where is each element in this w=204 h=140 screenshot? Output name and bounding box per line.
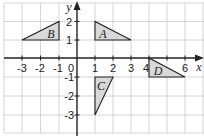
y-tick-label: 1 [66,34,72,46]
x-tick-label: 2 [110,62,116,74]
triangle-c-label: C [97,79,106,93]
y-axis-arrow-icon [74,1,81,10]
x-tick-label: 4 [143,62,149,74]
grid-lines [4,3,204,133]
y-tick-label: 2 [66,16,72,28]
x-tick-label: -2 [35,62,45,74]
y-axis-label: y [65,0,72,14]
y-tick-label: -2 [64,90,74,102]
x-tick-label: -3 [17,62,27,74]
y-tick-label: -1 [64,71,74,83]
y-tick-label: -3 [64,109,74,121]
x-tick-label: 3 [128,62,134,74]
coordinate-grid-figure: -3 -2 -1 0 1 2 3 4 5 6 2 1 -1 -2 -3 x y … [0,0,204,140]
triangle-d-label: D [153,64,163,78]
triangle-a-label: A [98,27,107,41]
x-tick-label: 6 [182,62,188,74]
x-axis-label: x [195,60,202,74]
triangle-b-label: B [47,27,55,41]
x-tick-label: -1 [53,62,63,74]
x-tick-label: 1 [92,62,98,74]
